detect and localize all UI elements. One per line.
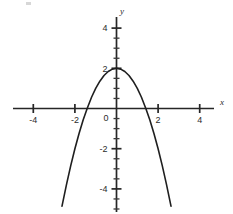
y-tick-label-4: 4 — [102, 23, 107, 33]
y-tick-label--2: -2 — [99, 144, 107, 154]
x-tick-label--2: -2 — [71, 115, 79, 125]
y-axis-label: y — [119, 6, 124, 16]
x-tick-label-2: 2 — [156, 115, 161, 125]
x-tick-label-4: 4 — [197, 115, 202, 125]
y-tick-label--4: -4 — [99, 184, 107, 194]
graph-canvas: -4-224 42-2-4 0 x y — [0, 0, 233, 214]
axes-group — [13, 17, 214, 212]
parabola-plot: -4-224 42-2-4 0 x y — [0, 0, 233, 214]
x-tick-label--4: -4 — [29, 115, 37, 125]
x-axis-label: x — [219, 97, 224, 107]
origin-tick-label: 0 — [103, 113, 108, 123]
